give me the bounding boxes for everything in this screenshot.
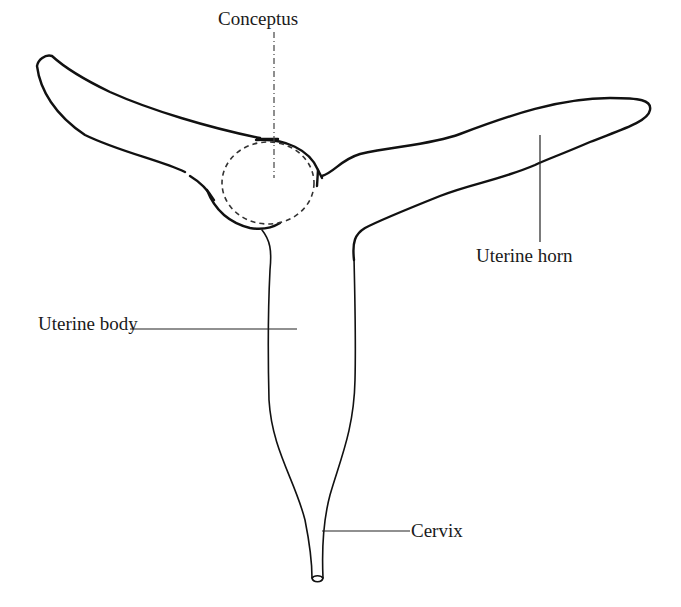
cervix-tip (312, 576, 323, 582)
uterine-body-label: Uterine body (38, 313, 138, 335)
conceptus-swelling-lower (207, 190, 280, 229)
uterine-body-left-edge (262, 230, 312, 578)
uterine-body-right-edge (323, 258, 356, 578)
cervix-label: Cervix (411, 520, 463, 542)
conceptus-label: Conceptus (218, 8, 298, 30)
right-uterine-horn-upper-edge (322, 98, 650, 260)
uterine-horn-label: Uterine horn (476, 245, 573, 267)
uterus-diagram (0, 0, 681, 607)
left-uterine-horn-outline (37, 56, 260, 172)
conceptus-dashed-outline (222, 142, 314, 224)
junction-notch (317, 170, 318, 186)
